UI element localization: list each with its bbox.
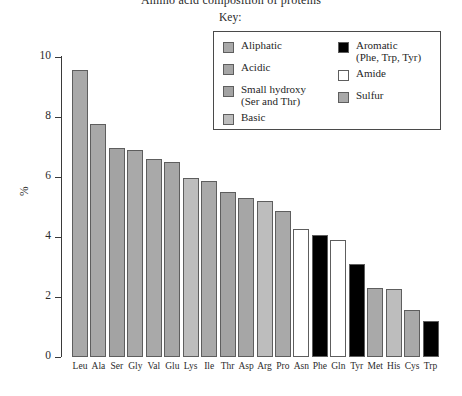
bar-met[interactable] <box>367 288 383 357</box>
bar-tyr[interactable] <box>349 264 365 357</box>
legend-label: Small hydroxy(Ser and Thr) <box>241 84 306 107</box>
legend-label: Basic <box>241 112 265 124</box>
bar-val[interactable] <box>146 159 162 357</box>
bar-phe[interactable] <box>312 235 328 357</box>
legend-label: Amide <box>356 68 386 80</box>
bar-asp[interactable] <box>238 198 254 357</box>
bar-trp[interactable] <box>423 321 439 357</box>
legend-swatch-amide <box>338 70 349 81</box>
legend-swatch-acidic <box>223 64 234 75</box>
legend-swatch-basic <box>223 114 234 125</box>
legend-swatch-aromatic <box>338 42 349 53</box>
legend-sublabel: (Ser and Thr) <box>241 96 306 108</box>
legend-item-basic[interactable]: Basic <box>223 112 333 129</box>
bar-cys[interactable] <box>404 310 420 357</box>
legend-sublabel: (Phe, Trp, Tyr) <box>356 52 421 64</box>
bar-gln[interactable] <box>330 240 346 357</box>
bar-lys[interactable] <box>183 178 199 357</box>
legend-swatch-sulfur <box>338 92 349 103</box>
legend-label: Acidic <box>241 62 270 74</box>
legend-caption: Key: <box>219 11 241 23</box>
legend-label: Aliphatic <box>241 40 282 52</box>
legend-column-left: AliphaticAcidicSmall hydroxy(Ser and Thr… <box>223 40 333 134</box>
bar-pro[interactable] <box>275 211 291 357</box>
bar-glu[interactable] <box>164 162 180 357</box>
legend-swatch-aliphatic <box>223 42 234 53</box>
bar-his[interactable] <box>386 289 402 357</box>
legend-item-sulfur[interactable]: Sulfur <box>338 90 438 107</box>
bar-gly[interactable] <box>127 150 143 357</box>
legend-item-aliphatic[interactable]: Aliphatic <box>223 40 333 57</box>
bar-thr[interactable] <box>220 192 236 357</box>
bar-ser[interactable] <box>109 148 125 357</box>
legend-column-right: Aromatic(Phe, Trp, Tyr)AmideSulfur <box>338 40 438 112</box>
bar-ile[interactable] <box>201 181 217 357</box>
bar-leu[interactable] <box>72 70 88 357</box>
legend-item-small-hydroxy[interactable]: Small hydroxy(Ser and Thr) <box>223 84 333 107</box>
bar-arg[interactable] <box>257 201 273 357</box>
x-tick-label-trp: Trp <box>419 361 443 371</box>
amino-acid-composition-chart: Amino acid composition of proteins 02468… <box>0 0 462 396</box>
legend-label: Sulfur <box>356 90 384 102</box>
bar-asn[interactable] <box>293 229 309 357</box>
legend-swatch-small-hydroxy <box>223 86 234 97</box>
legend-item-aromatic[interactable]: Aromatic(Phe, Trp, Tyr) <box>338 40 438 63</box>
bar-ala[interactable] <box>90 124 106 357</box>
legend-label: Aromatic(Phe, Trp, Tyr) <box>356 40 421 63</box>
legend-box: AliphaticAcidicSmall hydroxy(Ser and Thr… <box>213 31 441 130</box>
legend-item-amide[interactable]: Amide <box>338 68 438 85</box>
legend-item-acidic[interactable]: Acidic <box>223 62 333 79</box>
